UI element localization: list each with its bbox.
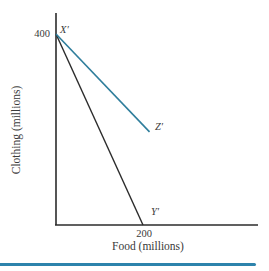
point-label-z-prime: Z′ — [155, 121, 163, 133]
y-axis-title: Clothing (millions) — [10, 86, 22, 175]
figure: 400 200 X′ Z′ Y′ Food (millions) Clothin… — [0, 0, 269, 271]
bottom-rule — [0, 263, 256, 266]
point-label-y-prime: Y′ — [151, 206, 159, 218]
series-line-x-to-y — [56, 34, 143, 225]
series-group — [56, 34, 150, 225]
point-label-x-prime: X′ — [60, 24, 69, 36]
x-axis-title: Food (millions) — [98, 240, 198, 252]
x-axis-tick-label-200: 200 — [129, 228, 159, 240]
series-line-x-to-z — [56, 34, 150, 132]
y-axis-tick-label-400: 400 — [28, 28, 50, 40]
